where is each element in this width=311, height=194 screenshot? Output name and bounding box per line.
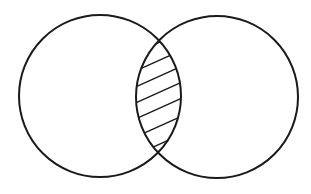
venn-diagram [0,0,311,194]
circle-set-b [136,16,298,178]
circle-set-a [19,15,181,177]
